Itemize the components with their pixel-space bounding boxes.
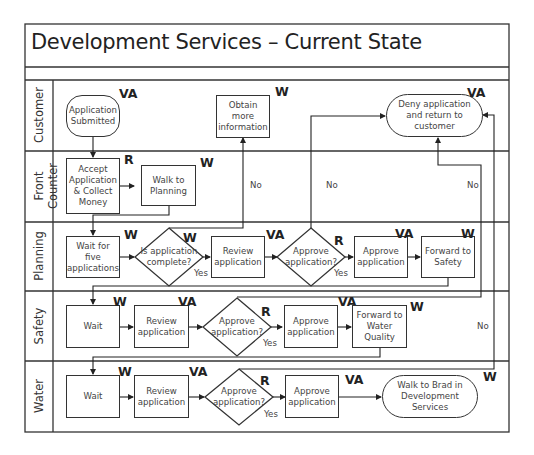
- node-walk-to-planning: Walk to Planning: [141, 165, 196, 206]
- decision-safety-approve: Approve application?: [208, 313, 266, 341]
- swimlane-diagram: Development Services – Current State Cus…: [0, 0, 534, 455]
- node-deny-application: Deny application and return to customer: [386, 94, 483, 137]
- tag-forward-water: W: [410, 299, 424, 314]
- tag-safety-approve-q: R: [261, 304, 271, 319]
- tag-walk-to-planning: W: [200, 155, 214, 170]
- tag-safety-wait: W: [113, 294, 127, 309]
- node-accept-application: Accept Application & Collect Money: [66, 158, 120, 214]
- tag-planning-review: VA: [266, 227, 285, 242]
- tag-forward-safety: W: [461, 226, 475, 241]
- node-water-wait: Wait: [66, 375, 120, 418]
- node-forward-safety: Forward to Safety: [421, 236, 475, 278]
- label-safety-approve-yes: Yes: [263, 338, 277, 348]
- tag-safety-review: VA: [178, 294, 197, 309]
- tag-accept-application: R: [124, 152, 134, 167]
- node-planning-review: Review application: [211, 236, 265, 278]
- node-walk-to-brad: Walk to Brad in Development Services: [382, 375, 478, 418]
- lane-label-planning: Planning: [32, 221, 46, 291]
- page-title: Development Services – Current State: [31, 30, 422, 54]
- node-wait-five: Wait for five applications: [66, 236, 120, 278]
- label-no-2: No: [326, 180, 338, 190]
- node-forward-water: Forward to Water Quality: [352, 305, 407, 348]
- tag-application-submitted: VA: [119, 86, 138, 101]
- node-water-review: Review application: [134, 375, 189, 418]
- lane-label-safety: Safety: [32, 291, 46, 361]
- label-no-4: No: [477, 321, 489, 331]
- label-planning-approve-yes: Yes: [334, 268, 348, 278]
- lane-label-water: Water: [32, 361, 46, 431]
- node-safety-approve: Approve application: [284, 305, 338, 348]
- lane-label-front-counter: Front Counter: [32, 151, 46, 221]
- node-obtain-more-info: Obtain more information: [216, 95, 270, 138]
- node-safety-wait: Wait: [66, 305, 120, 348]
- label-no-3: No: [467, 180, 479, 190]
- label-is-complete-yes: Yes: [194, 268, 208, 278]
- tag-planning-approve-q: R: [334, 233, 344, 248]
- node-safety-review: Review application: [134, 305, 189, 348]
- label-water-approve-yes: Yes: [264, 409, 278, 419]
- node-planning-approve: Approve application: [354, 236, 408, 278]
- lane-label-customer: Customer: [32, 80, 46, 150]
- tag-deny-application: VA: [467, 85, 486, 100]
- tag-wait-five: W: [124, 227, 138, 242]
- tag-water-wait: W: [118, 364, 132, 379]
- tag-water-review: VA: [189, 364, 208, 379]
- tag-walk-to-brad: W: [483, 369, 497, 384]
- tag-water-approve: VA: [345, 372, 364, 387]
- tag-water-approve-q: R: [260, 373, 270, 388]
- node-water-approve: Approve application: [285, 375, 339, 418]
- label-no-1: No: [250, 180, 262, 190]
- tag-is-complete: W: [183, 230, 197, 245]
- node-application-submitted: Application Submitted: [66, 95, 120, 137]
- tag-obtain-more-info: W: [275, 84, 289, 99]
- tag-planning-approve: VA: [395, 226, 414, 241]
- decision-planning-approve: Approve application?: [282, 243, 340, 271]
- decision-is-complete: Is application complete?: [140, 243, 198, 271]
